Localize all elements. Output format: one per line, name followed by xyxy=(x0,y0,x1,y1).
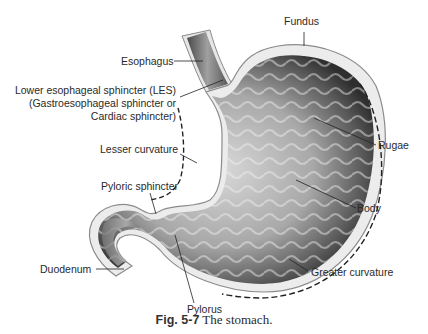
leader-pyloric-sphincter xyxy=(150,193,156,214)
label-duodenum: Duodenum xyxy=(40,263,91,276)
label-les: Lower esophageal sphincter (LES) (Gastro… xyxy=(10,84,176,123)
label-les-line3: Cardiac sphincter) xyxy=(10,110,176,123)
label-lesser-curvature: Lesser curvature xyxy=(100,143,178,156)
label-les-line2: (Gastroesophageal sphincter or xyxy=(10,97,176,110)
caption-number: Fig. 5-7 xyxy=(156,313,200,327)
stomach-illustration xyxy=(0,0,428,334)
caption-text: The stomach. xyxy=(202,312,272,327)
label-greater-curvature: Greater curvature xyxy=(311,266,393,279)
label-fundus: Fundus xyxy=(284,15,319,28)
label-body: Body xyxy=(357,202,381,215)
label-pyloric-sphincter: Pyloric sphincter xyxy=(101,180,178,193)
label-les-line1: Lower esophageal sphincter (LES) xyxy=(10,84,176,97)
label-rugae: Rugae xyxy=(378,139,409,152)
figure-caption: Fig. 5-7 The stomach. xyxy=(0,312,428,328)
stomach-diagram: Fundus Esophagus Lower esophageal sphinc… xyxy=(0,0,428,334)
leader-lesser-curvature xyxy=(180,154,197,163)
label-esophagus: Esophagus xyxy=(121,55,174,68)
